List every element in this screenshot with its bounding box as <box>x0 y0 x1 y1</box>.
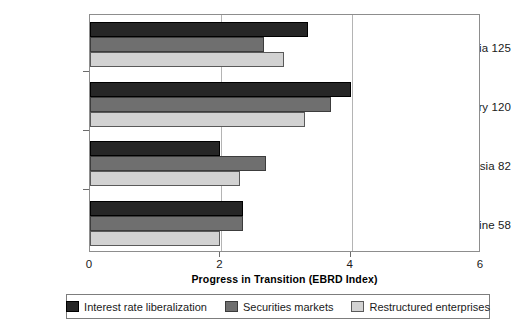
legend-item-restructured-enterprises[interactable]: Restructured enterprises <box>351 301 489 313</box>
bar-hungary-120-restructured-enterprises <box>90 112 305 127</box>
legend-swatch-icon <box>66 301 79 312</box>
x-tick-label-4: 4 <box>346 258 352 270</box>
y-tick-separator <box>83 71 89 72</box>
legend-item-securities-markets[interactable]: Securities markets <box>225 301 333 313</box>
legend-swatch-icon <box>351 301 364 312</box>
bar-hungary-120-interest-rate-liberalization <box>90 82 351 97</box>
x-tick-label-2: 2 <box>216 258 222 270</box>
x-tick-mark-2 <box>219 252 220 257</box>
legend-label: Interest rate liberalization <box>84 301 207 313</box>
x-axis-title: Progress in Transition (EBRD Index) <box>89 273 480 285</box>
legend: Interest rate liberalization Securities … <box>66 294 490 319</box>
bar-slovenia-125-securities-markets <box>90 37 264 52</box>
x-tick-label-0: 0 <box>86 258 92 270</box>
bar-russia-82-interest-rate-liberalization <box>90 141 220 156</box>
x-tick-mark-4 <box>350 252 351 257</box>
legend-item-interest-rate-liberalization[interactable]: Interest rate liberalization <box>66 301 207 313</box>
x-tick-label-6: 6 <box>477 258 483 270</box>
bar-slovenia-125-restructured-enterprises <box>90 52 284 67</box>
bar-ukraine-58-interest-rate-liberalization <box>90 201 243 216</box>
legend-swatch-icon <box>225 301 238 312</box>
gridline-4 <box>352 15 353 251</box>
bar-russia-82-securities-markets <box>90 156 266 171</box>
bar-ukraine-58-restructured-enterprises <box>90 231 220 246</box>
legend-label: Restructured enterprises <box>369 301 489 313</box>
bar-slovenia-125-interest-rate-liberalization <box>90 22 308 37</box>
bar-chart: Slovenia 125 Hungary 120 Russia 82 Ukrai… <box>0 0 511 335</box>
bar-ukraine-58-securities-markets <box>90 216 243 231</box>
plot-area <box>89 14 480 252</box>
bar-hungary-120-securities-markets <box>90 97 331 112</box>
legend-label: Securities markets <box>243 301 333 313</box>
y-tick-separator <box>83 189 89 190</box>
y-tick-separator <box>83 130 89 131</box>
bar-russia-82-restructured-enterprises <box>90 171 240 186</box>
